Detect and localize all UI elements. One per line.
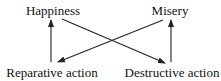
node-happiness: Happiness	[26, 4, 80, 18]
node-reparative-action: Reparative action	[6, 66, 97, 80]
node-destructive-action: Destructive action	[125, 66, 220, 80]
node-misery: Misery	[152, 4, 189, 18]
